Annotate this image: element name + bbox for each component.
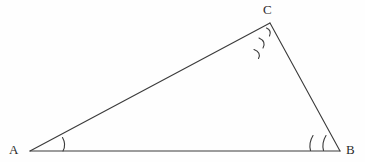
- angle-arc-a-1: [63, 138, 65, 152]
- triangle-diagram-svg: [0, 0, 365, 162]
- angle-arc-group-a: [63, 138, 65, 152]
- angle-arc-b-2: [323, 136, 326, 151]
- vertex-label-b: B: [346, 143, 355, 156]
- angle-arc-c-2: [259, 38, 264, 48]
- side-ac-line: [30, 23, 270, 151]
- vertex-label-a: A: [9, 143, 18, 156]
- angle-arc-c-1: [267, 28, 271, 36]
- geometry-figure: A B C: [0, 0, 365, 162]
- angle-arc-group-b: [310, 136, 326, 151]
- angle-arc-c-3: [254, 50, 259, 59]
- side-cb-line: [270, 23, 340, 151]
- angle-arc-b-1: [310, 136, 313, 151]
- angle-arc-group-c: [254, 28, 270, 59]
- vertex-label-c: C: [263, 3, 272, 16]
